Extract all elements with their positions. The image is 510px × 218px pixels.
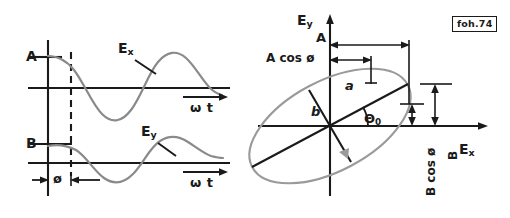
- right-ey-axis: [326, 14, 334, 196]
- amplitude-a-label: A: [26, 49, 37, 63]
- omega-t-label-top: ω t: [190, 101, 214, 114]
- right-ey-axis-label: Ey: [297, 13, 313, 29]
- right-ey-axis-label-base: E: [297, 12, 307, 28]
- omega-t-label-bottom: ω t: [190, 176, 214, 189]
- ex-wave-label-base: E: [118, 40, 128, 56]
- ey-wave-label: Ey: [141, 124, 157, 140]
- right-panel: [231, 14, 488, 207]
- dimension-a-cos-phi-label: A cos ø: [266, 52, 314, 64]
- phase-angle-label: ø: [53, 172, 62, 185]
- tilt-angle-label-base: Θ: [364, 111, 375, 126]
- right-ey-axis-label-sub: y: [307, 18, 313, 29]
- dimension-b-cos-phi: [400, 104, 424, 126]
- dimension-b-label: B: [447, 151, 459, 160]
- ex-wave-label-sub: x: [128, 46, 134, 57]
- amplitude-b-label: B: [26, 136, 37, 150]
- figure-tag: foh.74: [452, 16, 497, 32]
- right-ex-axis-label: Ex: [459, 142, 475, 158]
- tilt-angle-label: Θ0: [364, 112, 381, 127]
- ey-label-leader: [158, 143, 176, 156]
- dimension-b: [420, 84, 452, 126]
- right-ex-axis-label-base: E: [459, 141, 469, 157]
- dimension-b-cos-phi-label: B cos ø: [425, 148, 437, 196]
- semi-minor-label: b: [311, 105, 320, 118]
- ex-label-leader: [135, 60, 156, 74]
- dimension-a-label: A: [316, 31, 326, 44]
- ex-wave-label: Ex: [118, 41, 134, 57]
- ey-wave-label-base: E: [141, 123, 151, 139]
- right-ex-axis-label-sub: x: [469, 147, 475, 158]
- ey-wave-label-sub: y: [151, 129, 157, 140]
- phase-angle-dimension: [32, 174, 100, 186]
- semi-major-label: a: [345, 79, 354, 92]
- tilt-angle-label-sub: 0: [375, 117, 381, 127]
